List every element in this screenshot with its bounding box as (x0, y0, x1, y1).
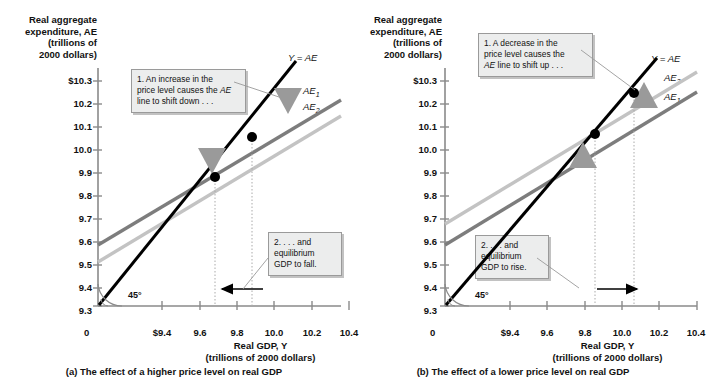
series-line-ae1-a (98, 100, 341, 245)
equilibrium-dot-new-a (210, 172, 220, 182)
series-line-y-equals-ae-a (99, 61, 296, 305)
callout-2-leader-a (243, 258, 268, 289)
series-line-ae2-b (445, 72, 697, 224)
panel-a-plot (0, 0, 348, 382)
series-line-ae2-a (98, 116, 341, 262)
callout-1-leader-a (234, 82, 288, 100)
panel-b-plot (349, 0, 697, 382)
panel-b-lower-price-level: Real aggregate expenditure, AE (trillion… (349, 0, 697, 382)
callout-2-leader-b (537, 258, 579, 288)
series-line-ae1-b (445, 92, 697, 245)
equilibrium-dot-initial-b (590, 129, 600, 139)
callout-1-leader-b (581, 50, 635, 90)
equilibrium-dot-initial-a (247, 132, 257, 142)
panel-a-higher-price-level: Real aggregate expenditure, AE (trillion… (0, 0, 348, 382)
